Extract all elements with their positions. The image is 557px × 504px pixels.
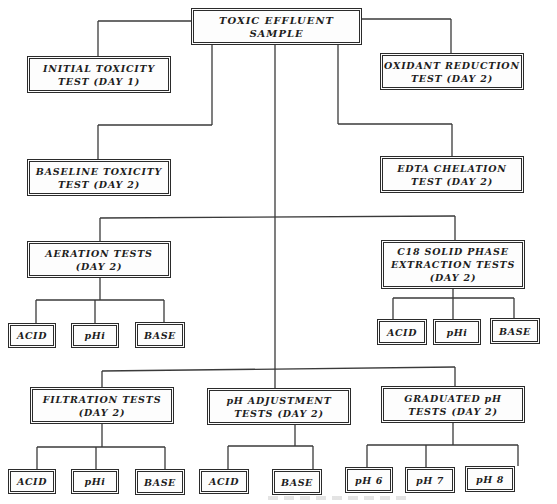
node-oxidant: OXIDANT REDUCTION TEST (DAY 2) xyxy=(380,53,524,90)
node-fil-acid: ACID xyxy=(8,469,56,494)
node-adj-acid: ACID xyxy=(199,469,249,494)
node-edta: EDTA CHELATION TEST (DAY 2) xyxy=(380,156,524,193)
node-initial: INITIAL TOXICITY TEST (DAY 1) xyxy=(27,56,171,93)
node-aer-phi: pHi xyxy=(71,323,119,348)
edge-aeration-c18-bar xyxy=(100,216,455,218)
node-ph7: pH 7 xyxy=(405,467,455,493)
node-ph8: pH 8 xyxy=(465,466,515,492)
node-c18: C18 SOLID PHASE EXTRACTION TESTS (DAY 2) xyxy=(381,240,525,289)
node-baseline: BASELINE TOXICITY TEST (DAY 2) xyxy=(27,159,171,196)
node-ph6: pH 6 xyxy=(345,467,393,493)
node-aeration: AERATION TESTS (DAY 2) xyxy=(27,241,171,278)
edge-bottom-bar xyxy=(102,367,455,371)
node-graduated: GRADUATED pH TESTS (DAY 2) xyxy=(381,386,525,423)
caption-faint xyxy=(268,496,408,500)
node-filtration: FILTRATION TESTS (DAY 2) xyxy=(30,387,174,424)
flowchart-canvas: TOXIC EFFLUENT SAMPLEINITIAL TOXICITY TE… xyxy=(0,0,557,504)
node-fil-phi: pHi xyxy=(71,469,119,494)
node-c18-phi: pHi xyxy=(433,319,481,345)
node-fil-base: BASE xyxy=(135,469,185,495)
node-root: TOXIC EFFLUENT SAMPLE xyxy=(191,8,362,45)
node-c18-acid: ACID xyxy=(377,319,427,345)
node-aer-acid: ACID xyxy=(8,323,56,348)
node-phadj: pH ADJUSTMENT TESTS (DAY 2) xyxy=(207,388,351,425)
node-aer-base: BASE xyxy=(135,322,185,348)
node-adj-base: BASE xyxy=(272,469,322,495)
node-c18-base: BASE xyxy=(490,318,540,344)
